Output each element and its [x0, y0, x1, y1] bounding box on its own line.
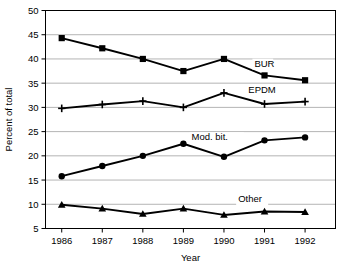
- x-tick-label: 1986: [51, 235, 72, 246]
- y-tick-label: 50: [28, 5, 39, 16]
- y-tick-label: 45: [28, 29, 39, 40]
- y-tick-label: 10: [28, 199, 39, 210]
- series-label-other: Other: [238, 193, 262, 204]
- y-tick-label: 15: [28, 175, 39, 186]
- data-point-mod-bit: [180, 141, 186, 147]
- data-point-bur: [302, 77, 308, 83]
- x-tick-label: 1990: [213, 235, 234, 246]
- y-tick-label: 35: [28, 78, 39, 89]
- data-point-bur: [140, 56, 146, 62]
- data-point-mod-bit: [140, 153, 146, 159]
- series-label-epdm: EPDM: [248, 84, 276, 95]
- data-point-mod-bit: [261, 137, 267, 143]
- x-tick-label: 1992: [295, 235, 316, 246]
- data-point-bur: [180, 68, 186, 74]
- data-point-mod-bit: [99, 163, 105, 169]
- y-tick-label: 40: [28, 53, 39, 64]
- y-tick-label: 20: [28, 150, 39, 161]
- data-point-bur: [59, 35, 65, 41]
- x-tick-label: 1991: [254, 235, 275, 246]
- series-label-mod-bit: Mod. bit.: [192, 131, 228, 142]
- chart-background: [0, 0, 344, 266]
- y-tick-label: 5: [33, 223, 38, 234]
- data-point-mod-bit: [221, 154, 227, 160]
- x-tick-label: 1987: [92, 235, 113, 246]
- data-point-bur: [99, 45, 105, 51]
- x-tick-label: 1989: [173, 235, 194, 246]
- y-tick-label: 25: [28, 126, 39, 137]
- data-point-mod-bit: [302, 134, 308, 140]
- data-point-bur: [261, 72, 267, 78]
- line-chart: 5101520253035404550 19861987198819891990…: [0, 0, 344, 266]
- x-axis-title: Year: [181, 252, 200, 263]
- chart-container: 5101520253035404550 19861987198819891990…: [0, 0, 344, 266]
- data-point-mod-bit: [59, 173, 65, 179]
- x-tick-label: 1988: [132, 235, 153, 246]
- y-tick-label: 30: [28, 102, 39, 113]
- data-point-bur: [221, 56, 227, 62]
- series-label-bur: BUR: [254, 58, 274, 69]
- y-axis-title: Percent of total: [3, 88, 14, 152]
